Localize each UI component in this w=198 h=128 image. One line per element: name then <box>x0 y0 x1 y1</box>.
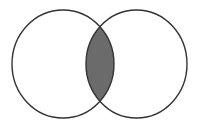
venn-diagram <box>0 0 198 128</box>
